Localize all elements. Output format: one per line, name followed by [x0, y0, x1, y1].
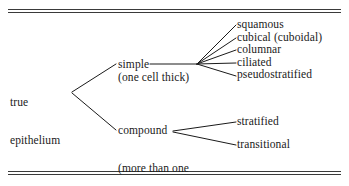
- connector-hub-to-squamous: [197, 25, 236, 64]
- leaf-squamous: squamous: [237, 18, 284, 31]
- node-compound-sublabel: (more than one cell thick): [118, 137, 189, 186]
- epithelium-classification-diagram: true epithelium simple (one cell thick) …: [0, 0, 349, 186]
- node-compound: compound: [118, 124, 167, 137]
- leaf-ciliated: ciliated: [237, 56, 272, 69]
- node-true-epithelium-line1: true: [10, 96, 60, 109]
- node-compound-sublabel-line1: (more than one: [118, 162, 189, 175]
- connector-compound-to-stratified: [173, 122, 236, 131]
- connector-root-to-compound: [72, 93, 116, 130]
- connector-hub-to-pseudostratified: [197, 64, 236, 76]
- leaf-stratified: stratified: [237, 115, 279, 128]
- leaf-transitional: transitional: [237, 138, 290, 151]
- leaf-columnar: columnar: [237, 43, 281, 56]
- top-double-rule: [8, 10, 341, 13]
- leaf-pseudostratified: pseudostratified: [237, 68, 312, 81]
- connector-hub-to-ciliated: [197, 63, 236, 64]
- node-true-epithelium: true epithelium: [10, 71, 60, 172]
- connector-hub-to-columnar: [197, 50, 236, 64]
- connector-hub-to-cubical: [197, 38, 236, 64]
- connector-root-to-simple: [72, 64, 116, 92]
- node-true-epithelium-line2: epithelium: [10, 134, 60, 147]
- node-simple-sublabel: (one cell thick): [118, 71, 189, 84]
- node-simple: simple: [118, 58, 149, 71]
- leaf-cubical-cuboidal: cubical (cuboidal): [237, 31, 322, 44]
